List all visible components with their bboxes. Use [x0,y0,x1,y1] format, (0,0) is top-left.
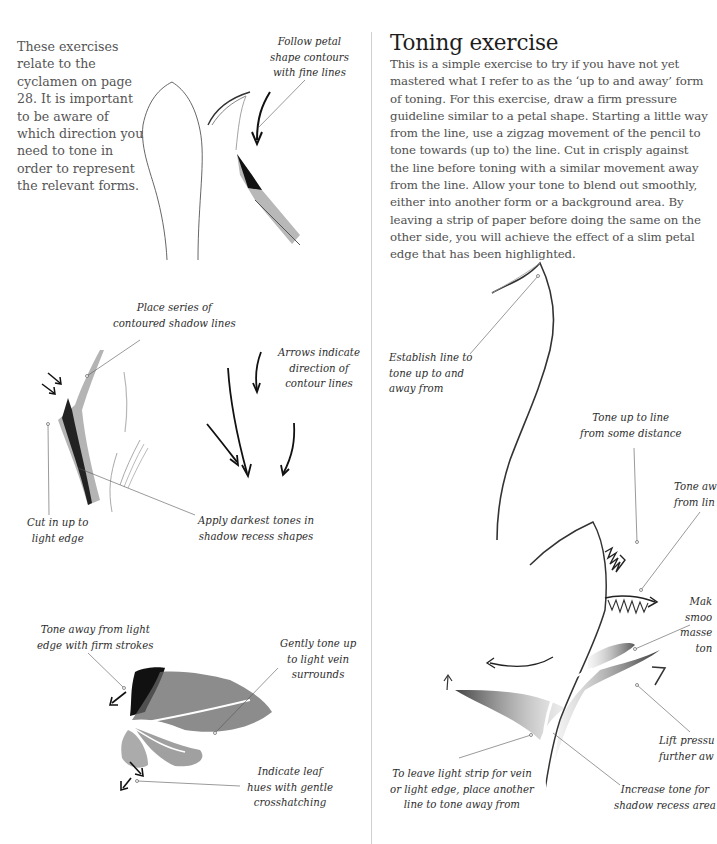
annotation-cut-in: Cut in up to light edge [27,515,88,546]
pencil-icon [237,154,300,245]
shadow-lines-drawing [58,350,148,512]
section-heading: Toning exercise [390,30,558,55]
leaf-drawing [121,667,272,767]
annotation-establish-line: Establish line to tone up to and away fr… [389,350,472,397]
annotation-tone-away-from-line: Tone aw from lin [674,479,717,510]
annotation-leave-light-strip: To leave light strip for vein or light e… [390,766,534,813]
annotation-follow-petal: Follow petal shape contours with fine li… [270,34,349,81]
annotation-make-smooth: Mak smoo masse ton [680,594,712,656]
annotation-lift-pressure: Lift pressu further aw [659,733,715,764]
arrow-icon [252,92,270,144]
page-gutter-divider [371,32,372,844]
annotation-apply-darkest: Apply darkest tones in shadow recess sha… [198,513,314,544]
body-paragraph: This is a simple exercise to try if you … [390,56,710,264]
annotation-increase-tone: Increase tone for shadow recess area [614,782,716,813]
annotation-indicate-leaf: Indicate leaf hues with gentle crosshatc… [247,764,333,811]
annotation-arrows-indicate: Arrows indicate direction of contour lin… [278,345,360,392]
arrow-icon [42,373,61,394]
annotation-place-series: Place series of contoured shadow lines [113,300,236,331]
petal-drawing [143,82,250,260]
annotation-tone-away-light: Tone away from light edge with firm stro… [37,622,154,653]
guideline-drawing [492,263,553,540]
annotation-gently-tone: Gently tone up to light vein surrounds [280,636,356,683]
toning-drawing [444,522,665,790]
intro-paragraph: These exercises relate to the cyclamen o… [17,38,147,195]
annotation-tone-up-to-line: Tone up to line from some distance [580,410,681,441]
